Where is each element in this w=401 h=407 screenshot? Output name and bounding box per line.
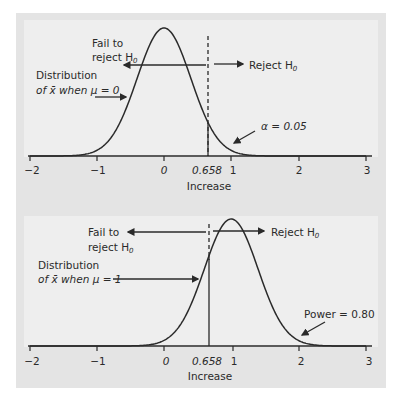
bottom-fail-label-line1: Fail to [88,226,119,238]
top-reject-text: Reject H [249,59,293,71]
bottom-tick-label: 0 [163,355,170,367]
top-tick-label: 0 [161,164,168,176]
bottom-reject-label: Reject H0 [271,226,319,242]
bottom-reject-text: Reject H [271,226,315,238]
bottom-tick-label: 1 [231,355,238,367]
top-fail-label-line2: reject H0 [92,51,138,67]
bottom-reject-subscript: 0 [315,232,319,240]
bottom-tick-label: 2 [298,355,305,367]
bottom-fail-label-line2: reject H0 [88,241,134,257]
bottom-fail-text: reject H [88,241,129,253]
top-tick-label: −2 [24,164,39,176]
bottom-x-axis-title: Increase [188,370,232,382]
bottom-chart [28,219,372,351]
top-fail-label-line1: Fail to [92,37,123,49]
bottom-power-label: Power = 0.80 [304,308,375,320]
bottom-tick-label: −2 [24,355,39,367]
top-tick-label: 1 [230,164,237,176]
top-tick-label: 0.658 [192,164,222,176]
top-alpha-label: α = 0.05 [261,120,307,132]
bottom-distribution-label-line2: of x̄ when μ = 1 [38,273,122,285]
top-alpha-pointer [234,131,255,143]
top-reject-label: Reject H0 [249,59,297,75]
top-tick-label: 2 [296,164,303,176]
bottom-h-subscript: 0 [129,247,133,255]
top-tick-label: 3 [364,164,371,176]
bottom-tick-label: 3 [366,355,373,367]
bottom-distribution-label-line1: Distribution [38,259,99,271]
top-h-subscript: 0 [133,57,137,65]
top-x-axis-title: Increase [187,180,231,192]
bottom-tick-label: 0.658 [192,355,222,367]
top-distribution-label-line1: Distribution [36,69,97,81]
top-distribution-label-line2: of x̄ when μ = 0 [36,84,120,96]
bottom-tick-label: −1 [90,355,105,367]
top-reject-subscript: 0 [293,65,297,73]
top-fail-text: reject H [92,51,133,63]
top-tick-label: −1 [90,164,105,176]
bottom-power-pointer [302,322,325,335]
chart-svg [0,0,401,407]
